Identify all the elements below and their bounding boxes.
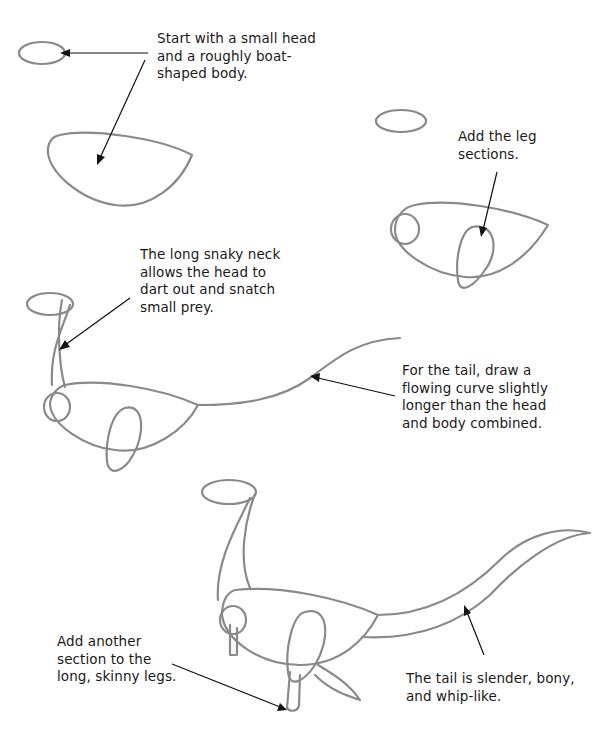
hind-foot — [315, 665, 360, 700]
step1-caption: Start with a small head and a roughly bo… — [157, 30, 316, 83]
step6-caption: The tail is slender, bony, and whip-like… — [406, 670, 575, 705]
front-leg — [230, 625, 237, 655]
step3-figure — [27, 293, 400, 471]
lower-leg — [287, 672, 300, 711]
head-oval — [27, 293, 73, 315]
boat-body — [395, 203, 548, 278]
step5-caption: Add another section to the long, skinny … — [57, 633, 176, 686]
step3-caption: The long snaky neck allows the head to d… — [140, 246, 280, 316]
shoulder-circle — [44, 393, 70, 421]
step4-caption: For the tail, draw a flowing curve sligh… — [402, 362, 548, 432]
boat-body — [48, 133, 192, 206]
head-oval — [19, 42, 65, 64]
leg-oval — [287, 611, 325, 682]
step2-caption: Add the leg sections. — [458, 128, 537, 163]
boat-body — [50, 383, 198, 451]
neck — [218, 494, 255, 600]
leg-oval — [107, 407, 142, 470]
leg-oval — [457, 226, 493, 287]
head-oval — [376, 110, 426, 132]
tail-curve — [198, 338, 400, 405]
thick-tail — [362, 530, 590, 637]
